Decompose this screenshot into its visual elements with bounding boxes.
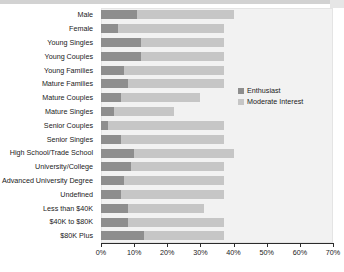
category-label: $80K Plus xyxy=(0,229,97,243)
bar-group xyxy=(101,107,333,116)
category-label: Mature Singles xyxy=(0,105,97,119)
x-axis-tick xyxy=(200,243,201,247)
bar-segment-enthusiast xyxy=(101,38,141,47)
category-label: Young Couples xyxy=(0,49,97,63)
bar-row xyxy=(101,146,333,160)
x-axis-tick-label: 50% xyxy=(260,249,274,256)
bar-segment-enthusiast xyxy=(101,176,124,185)
x-axis-ticks xyxy=(101,243,333,247)
category-label: Less than $40K xyxy=(0,201,97,215)
bar-group xyxy=(101,24,333,33)
category-label: Advanced University Degree xyxy=(0,174,97,188)
bar-group xyxy=(101,38,333,47)
plot-area xyxy=(101,8,333,243)
bar-row xyxy=(101,188,333,202)
bar-segment-moderate-interest xyxy=(101,121,224,130)
legend-item[interactable]: Enthusiast xyxy=(238,86,334,95)
bar-row xyxy=(101,49,333,63)
bar-row xyxy=(101,215,333,229)
bar-group xyxy=(101,218,333,227)
x-axis-tick xyxy=(333,243,334,247)
x-axis-tick-label: 70% xyxy=(326,249,340,256)
x-axis-tick-label: 0% xyxy=(96,249,106,256)
bar-group xyxy=(101,66,333,75)
bar-group xyxy=(101,135,333,144)
bar-segment-enthusiast xyxy=(101,107,114,116)
category-label: Senior Singles xyxy=(0,132,97,146)
bar-group xyxy=(101,176,333,185)
bar-row xyxy=(101,36,333,50)
legend-color-swatch xyxy=(238,99,244,105)
bar-group xyxy=(101,231,333,240)
legend-item-label: Moderate Interest xyxy=(247,98,303,105)
x-axis-tick-label: 10% xyxy=(127,249,141,256)
chart-legend: EnthusiastModerate Interest xyxy=(238,86,334,108)
x-axis-tick-label: 20% xyxy=(160,249,174,256)
x-axis-tick xyxy=(134,243,135,247)
bar-segment-enthusiast xyxy=(101,24,118,33)
bar-segment-enthusiast xyxy=(101,52,141,61)
bar-group xyxy=(101,190,333,199)
top-right-corner-strip xyxy=(330,0,344,8)
bar-segment-enthusiast xyxy=(101,218,128,227)
bar-segment-enthusiast xyxy=(101,149,134,158)
category-label: Senior Couples xyxy=(0,119,97,133)
x-axis-tick xyxy=(167,243,168,247)
bar-row xyxy=(101,8,333,22)
category-axis-labels: MaleFemaleYoung SinglesYoung CouplesYoun… xyxy=(0,8,97,243)
x-axis-tick xyxy=(101,243,102,247)
bar-row xyxy=(101,174,333,188)
x-axis-tick-label: 60% xyxy=(293,249,307,256)
category-label: University/College xyxy=(0,160,97,174)
bar-segment-enthusiast xyxy=(101,66,124,75)
bar-segment-enthusiast xyxy=(101,162,131,171)
bar-segment-enthusiast xyxy=(101,10,137,19)
bar-group xyxy=(101,52,333,61)
category-label: Young Families xyxy=(0,63,97,77)
category-label: Mature Families xyxy=(0,77,97,91)
bar-segment-enthusiast xyxy=(101,135,121,144)
bar-segment-enthusiast xyxy=(101,204,128,213)
category-label: High School/Trade School xyxy=(0,146,97,160)
bar-group xyxy=(101,10,333,19)
x-axis-tick xyxy=(234,243,235,247)
bar-row xyxy=(101,160,333,174)
bar-row xyxy=(101,229,333,243)
x-axis-tick-label: 40% xyxy=(226,249,240,256)
legend-color-swatch xyxy=(238,88,244,94)
bar-row xyxy=(101,63,333,77)
category-label: Young Singles xyxy=(0,36,97,50)
category-label: Mature Couples xyxy=(0,91,97,105)
chart-screenshot: MaleFemaleYoung SinglesYoung CouplesYoun… xyxy=(0,0,344,272)
category-label: $40K to $80K xyxy=(0,215,97,229)
bar-segment-enthusiast xyxy=(101,93,121,102)
bar-segment-moderate-interest xyxy=(101,24,224,33)
bar-row xyxy=(101,132,333,146)
x-axis-tick xyxy=(300,243,301,247)
bar-group xyxy=(101,162,333,171)
bar-row xyxy=(101,22,333,36)
bar-group xyxy=(101,121,333,130)
category-label: Female xyxy=(0,22,97,36)
legend-item[interactable]: Moderate Interest xyxy=(238,97,334,106)
legend-item-label: Enthusiast xyxy=(247,87,281,94)
bar-row xyxy=(101,201,333,215)
bar-segment-enthusiast xyxy=(101,190,121,199)
bar-segment-enthusiast xyxy=(101,121,108,130)
bar-row xyxy=(101,119,333,133)
top-edge-strip xyxy=(0,0,344,4)
category-label: Undefined xyxy=(0,188,97,202)
bar-group xyxy=(101,149,333,158)
bar-group xyxy=(101,204,333,213)
x-axis-tick xyxy=(267,243,268,247)
bar-segment-enthusiast xyxy=(101,231,144,240)
category-label: Male xyxy=(0,8,97,22)
x-axis-tick-labels: 0%10%20%30%40%50%60%70% xyxy=(101,249,333,261)
bar-segment-enthusiast xyxy=(101,79,128,88)
x-axis-tick-label: 30% xyxy=(193,249,207,256)
bar-rows xyxy=(101,8,333,243)
